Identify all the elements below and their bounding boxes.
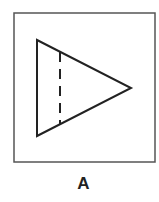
figure-label: A (0, 174, 159, 194)
triangle-shape (37, 40, 131, 136)
diagram-svg (0, 0, 159, 202)
frame-square (14, 13, 155, 162)
diagram-figure: A (0, 0, 159, 202)
